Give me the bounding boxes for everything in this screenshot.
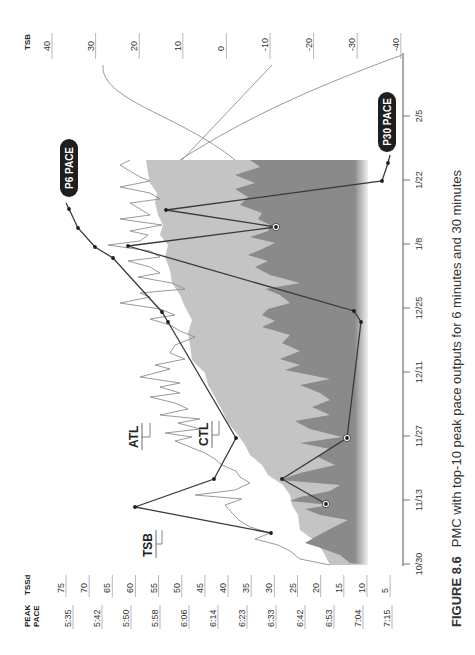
atl-projection (103, 65, 235, 160)
p30-pace-badge: P30 PACE (378, 92, 396, 152)
date-ticks: 10/3011/1311/2712/1112/251/81/222/5 (403, 110, 424, 576)
pace-data-point (380, 179, 384, 183)
pace-data-point (126, 244, 130, 248)
tssd-tick-label: 55 (149, 583, 159, 593)
pace-data-point (212, 477, 216, 481)
pace-data-point (386, 161, 390, 165)
figure-caption: FIGURE 8.6 PMC with top-10 peak pace out… (447, 169, 464, 627)
ctl-series-label: CTL (197, 421, 219, 448)
tsb-label: TSB (141, 533, 155, 557)
p6-badge-text: P6 PACE (64, 147, 75, 189)
tsb-ticks: 403020100-10-20-30-40 (42, 33, 401, 59)
tssd-tick-label: 65 (102, 583, 112, 593)
pace-data-point (93, 245, 97, 249)
svg-text:FIGURE 8.6 PMC with top-: FIGURE 8.6 PMC with top-10 peak pace out… (447, 169, 464, 627)
area-fade (300, 157, 370, 567)
tssd-tick-label: 5 (380, 588, 390, 593)
tsb-tick-label: -40 (391, 38, 401, 51)
ctl-projection (182, 65, 272, 160)
pace-tick-label: 6:33 (266, 609, 276, 627)
pace-tick-label: 7:15 (382, 609, 392, 627)
pace-tick-label: 5:35 (63, 609, 73, 627)
date-tick-label: 1/22 (414, 171, 424, 189)
pace-tick-label: 7:04 (353, 609, 363, 627)
tssd-tick-label: 40 (218, 583, 228, 593)
pace-data-point (133, 505, 137, 509)
tsb-tick-label: 0 (216, 46, 226, 51)
left-axis: PEAK PACE TSSd 5:355:425:505:586:066:146… (23, 574, 392, 629)
pace-data-point (359, 320, 363, 324)
pace-data-point (234, 436, 238, 440)
tssd-tick-label: 10 (357, 583, 367, 593)
pace-data-point (345, 436, 349, 440)
p6-pace-badge: P6 PACE (60, 139, 78, 197)
date-tick-label: 12/25 (414, 297, 424, 320)
tssd-tick-label: 75 (56, 583, 66, 593)
plot-area: TSB ATL CTL P6 PACE P30 PACE (60, 55, 402, 567)
pace-tick-label: 5:50 (121, 609, 131, 627)
date-tick-label: 2/5 (414, 110, 424, 123)
pace-data-point (352, 309, 356, 313)
date-tick-label: 1/8 (414, 238, 424, 251)
pace-data-point (280, 477, 284, 481)
pace-data-point (67, 207, 71, 211)
tssd-tick-label: 70 (79, 583, 89, 593)
p30-badge-text: P30 PACE (382, 98, 393, 146)
tssd-header: TSSd (23, 574, 32, 595)
pmc-chart: PEAK PACE TSSd 5:355:425:505:586:066:146… (0, 0, 475, 655)
tsb-tick-label: -30 (347, 38, 357, 51)
tssd-ticks: 75706560555045403530252015105 (56, 575, 390, 597)
pace-data-point (76, 226, 80, 230)
tsb-tick-label: 10 (173, 41, 183, 51)
peak-pace-header-1: PEAK (23, 605, 32, 627)
tssd-tick-label: 35 (241, 583, 251, 593)
pace-data-point (269, 531, 273, 535)
tssd-tick-label: 20 (311, 583, 321, 593)
peak-pace-header-2: PACE (32, 605, 41, 627)
tsb-tick-label: 30 (86, 41, 96, 51)
date-tick-label: 11/27 (414, 425, 424, 447)
pace-data-point (324, 502, 328, 506)
pace-data-point (111, 256, 115, 260)
caption-figure-number: FIGURE 8.6 (449, 556, 464, 627)
tssd-tick-label: 25 (288, 583, 298, 593)
pace-data-point (164, 208, 168, 212)
tssd-tick-label: 50 (172, 583, 182, 593)
pace-tick-label: 6:06 (179, 609, 189, 627)
chart-rotated-container: PEAK PACE TSSd 5:355:425:505:586:066:146… (0, 0, 475, 655)
pace-data-point (166, 320, 170, 324)
pace-tick-label: 6:14 (208, 609, 218, 627)
date-tick-label: 12/11 (414, 361, 424, 383)
pace-tick-label: 6:23 (237, 609, 247, 627)
tsb-tick-label: 20 (129, 41, 139, 51)
ctl-label: CTL (197, 423, 211, 446)
pace-tick-label: 5:42 (92, 609, 102, 627)
pace-ticks: 5:355:425:505:586:066:146:236:336:426:53… (63, 605, 392, 629)
caption-text: PMC with top-10 peak pace outputs for 6 … (449, 169, 464, 547)
tssd-tick-label: 60 (125, 583, 135, 593)
date-tick-label: 10/30 (414, 553, 424, 576)
tsb-tick-label: -10 (260, 38, 270, 51)
pace-tick-label: 6:53 (324, 609, 334, 627)
tsb-tick-label: 40 (42, 41, 52, 51)
tsb-tick-label: -20 (304, 38, 314, 51)
date-axis: 10/3011/1311/2712/1112/251/81/222/5 (403, 53, 424, 575)
tssd-tick-label: 15 (334, 583, 344, 593)
right-axis: TSB 403020100-10-20-30-40 (23, 33, 401, 59)
date-tick-label: 11/13 (414, 489, 424, 511)
pace-data-point (274, 225, 278, 229)
pace-data-point (160, 310, 164, 314)
tssd-tick-label: 45 (195, 583, 205, 593)
atl-series-label: ATL (127, 423, 150, 450)
tssd-tick-label: 30 (264, 583, 274, 593)
tsb-series-label: TSB (141, 530, 162, 558)
atl-label: ATL (127, 426, 141, 448)
pace-tick-label: 6:42 (295, 609, 305, 627)
tsb-header: TSB (23, 34, 32, 50)
pace-tick-label: 5:58 (150, 609, 160, 627)
